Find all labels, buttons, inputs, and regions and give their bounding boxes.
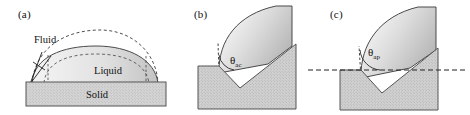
theta-subscript: ap bbox=[373, 53, 380, 61]
panel-c-graphic: θap bbox=[306, 0, 470, 115]
theta-subscript: ac bbox=[235, 61, 241, 69]
contact-angle-figure: (a) bbox=[0, 0, 470, 115]
panel-c: (c) bbox=[306, 0, 470, 115]
panel-a: (a) bbox=[0, 0, 172, 115]
liquid-label: Liquid bbox=[94, 65, 123, 76]
solid-label: Solid bbox=[86, 89, 109, 100]
fluid-label: Fluid bbox=[34, 34, 57, 45]
panel-b-graphic: θac bbox=[172, 0, 306, 115]
panel-b: (b) bbox=[172, 0, 306, 115]
panel-a-graphic: Fluid Liquid Solid bbox=[0, 0, 172, 115]
